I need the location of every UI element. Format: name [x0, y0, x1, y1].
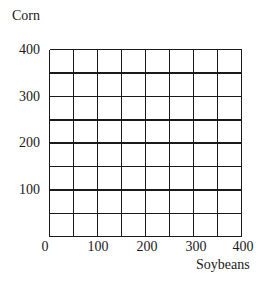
x-tick-100: 100: [78, 240, 118, 254]
y-tick-300: 300: [10, 90, 40, 104]
x-tick-300: 300: [176, 240, 216, 254]
y-tick-400: 400: [10, 43, 40, 57]
x-axis-title: Soybeans: [196, 258, 250, 272]
y-tick-200: 200: [10, 136, 40, 150]
x-tick-0: 0: [25, 240, 65, 254]
y-tick-100: 100: [10, 183, 40, 197]
x-tick-400: 400: [223, 240, 263, 254]
y-axis-title: Corn: [12, 9, 40, 23]
x-tick-200: 200: [127, 240, 167, 254]
blank-grid-chart: Corn 400 300 200 100 0 100 200 300 400 S…: [0, 0, 264, 287]
